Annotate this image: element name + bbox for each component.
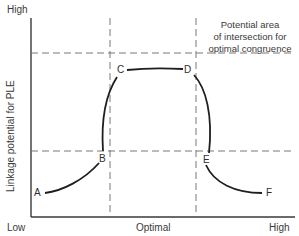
y-axis-title: Linkage potential for PLE (5, 80, 16, 192)
point-a-label: A (34, 188, 41, 198)
point-f-label: F (266, 188, 272, 198)
point-e-label: E (203, 155, 210, 165)
point-b-label: B (99, 154, 106, 164)
annotation-line-1: Potential area (205, 19, 295, 31)
point-c-label: C (117, 65, 124, 75)
curve-c-to-d (127, 68, 183, 70)
curve-a-to-b (45, 163, 99, 193)
x-axis-optimal-label: Optimal (136, 222, 170, 233)
y-axis-high-label: High (7, 4, 28, 15)
x-axis-low-label: Low (7, 222, 25, 233)
intersection-annotation: Potential area of intersection for optim… (205, 19, 295, 55)
annotation-line-3: optimal congruence (205, 43, 295, 55)
annotation-line-2: of intersection for (205, 31, 295, 43)
point-d-label: D (184, 65, 191, 75)
curve-e-to-f (206, 165, 262, 193)
x-axis-high-label: High (269, 222, 290, 233)
